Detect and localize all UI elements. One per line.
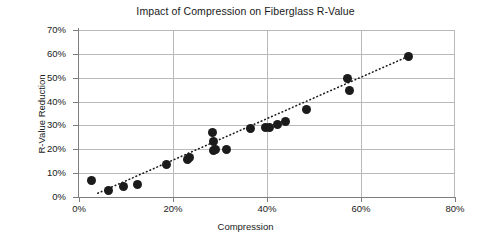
data-point bbox=[222, 145, 231, 154]
y-axis-tick-label: 0% bbox=[26, 192, 66, 202]
y-axis-tick-label: 30% bbox=[26, 120, 66, 130]
data-point bbox=[404, 52, 413, 61]
y-axis-tick-label: 10% bbox=[26, 168, 66, 178]
x-axis-tick-label: 40% bbox=[247, 203, 287, 214]
x-axis-tick-label: 20% bbox=[153, 203, 193, 214]
x-axis-tick bbox=[173, 197, 174, 202]
y-axis-tick-label: 60% bbox=[26, 49, 66, 59]
y-axis-tick-label: 70% bbox=[26, 25, 66, 35]
y-axis-tick-label: 40% bbox=[26, 97, 66, 107]
data-point bbox=[246, 124, 255, 133]
chart-title: Impact of Compression on Fiberglass R-Va… bbox=[0, 5, 491, 17]
x-axis-tick bbox=[455, 197, 456, 202]
data-point bbox=[208, 128, 217, 137]
x-axis-tick bbox=[361, 197, 362, 202]
x-axis-tick-label: 80% bbox=[435, 203, 475, 214]
trendline bbox=[79, 30, 455, 197]
y-axis-title-container: R-Value Reduction bbox=[8, 30, 28, 197]
x-axis-tick bbox=[79, 197, 80, 202]
data-point bbox=[133, 180, 142, 189]
y-axis-tick-label: 20% bbox=[26, 144, 66, 154]
y-axis-tick-label: 50% bbox=[26, 73, 66, 83]
x-axis-tick bbox=[267, 197, 268, 202]
x-axis-tick-label: 0% bbox=[59, 203, 99, 214]
plot-area bbox=[79, 30, 455, 197]
chart-figure: Impact of Compression on Fiberglass R-Va… bbox=[0, 0, 491, 241]
data-point bbox=[345, 86, 354, 95]
x-axis-tick-label: 60% bbox=[341, 203, 381, 214]
x-axis-title: Compression bbox=[0, 221, 491, 232]
